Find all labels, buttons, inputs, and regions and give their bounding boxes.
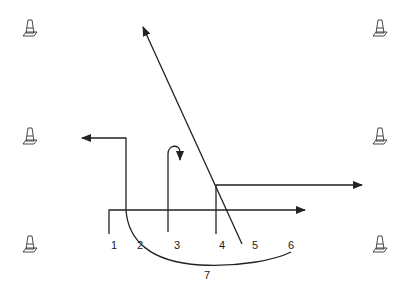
route-label-6: 6 bbox=[288, 240, 294, 251]
cone-icon bbox=[373, 20, 387, 36]
route-label-1: 1 bbox=[111, 240, 117, 251]
route-2-line bbox=[82, 138, 126, 210]
route-label-5: 5 bbox=[252, 240, 258, 251]
route-label-4: 4 bbox=[219, 240, 225, 251]
route-3-line bbox=[168, 146, 180, 232]
route-1-line bbox=[109, 210, 305, 234]
cone-icon bbox=[373, 128, 387, 144]
route-label-7: 7 bbox=[204, 270, 210, 281]
route-label-2: 2 bbox=[137, 240, 143, 251]
route-7-curve bbox=[126, 210, 291, 265]
cone-icon bbox=[23, 20, 37, 36]
route-label-3: 3 bbox=[174, 240, 180, 251]
cone-icon bbox=[23, 236, 37, 252]
cone-icon bbox=[23, 128, 37, 144]
route-5-line bbox=[143, 27, 242, 244]
cones-group bbox=[23, 20, 387, 252]
cone-icon bbox=[373, 236, 387, 252]
route-diagram: 1 2 3 4 5 6 7 bbox=[0, 0, 409, 296]
diagram-canvas bbox=[0, 0, 409, 296]
